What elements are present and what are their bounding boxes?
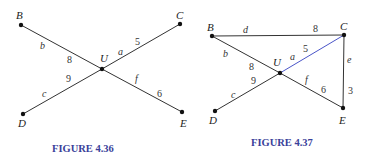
edge-name-b: b	[40, 40, 45, 51]
vertex-D	[21, 112, 25, 116]
vertex-label-U: U	[273, 56, 282, 68]
edge-weight-b: 8	[249, 61, 254, 72]
edge-weight-f: 6	[157, 88, 162, 99]
edge-weight-c: 9	[251, 75, 256, 86]
edge-weight-e: 3	[348, 85, 353, 96]
edge-name-f: f	[305, 74, 309, 85]
vertex-label-U: U	[100, 52, 109, 64]
figure-caption: FIGURE 4.37	[251, 137, 313, 148]
edge-name-a: a	[118, 46, 123, 57]
figure-caption: FIGURE 4.36	[52, 143, 114, 154]
edge-a	[102, 24, 180, 69]
vertex-label-C: C	[340, 20, 348, 32]
vertex-label-B: B	[207, 21, 214, 33]
vertex-U	[278, 71, 282, 75]
edge-name-f: f	[135, 73, 139, 84]
edge-name-d: d	[243, 24, 249, 35]
edge-name-b: b	[223, 48, 228, 59]
edge-weight-c: 9	[66, 73, 71, 84]
edge-d	[212, 35, 344, 36]
vertex-B	[210, 34, 214, 38]
edge-name-a: a	[290, 51, 295, 62]
figure-4-36: B C U D E b 8 a 5 9 c f 6 FIGURE 4.36	[16, 9, 187, 154]
edge-weight-d: 8	[313, 23, 318, 34]
vertex-label-E: E	[179, 117, 187, 129]
edge-weight-a: 5	[135, 36, 140, 47]
edge-name-c: c	[42, 88, 47, 99]
vertex-label-B: B	[16, 9, 23, 21]
vertex-label-C: C	[176, 9, 184, 21]
vertex-U	[100, 67, 104, 71]
edge-weight-b: 8	[67, 54, 72, 65]
edge-f	[102, 69, 182, 112]
vertex-C	[178, 22, 182, 26]
vertex-B	[19, 23, 23, 27]
graph-figures: B C U D E b 8 a 5 9 c f 6 FIGURE 4.36 B …	[0, 0, 369, 158]
edge-e	[343, 35, 344, 108]
edge-weight-a: 5	[303, 43, 308, 54]
edge-name-e: e	[347, 54, 352, 65]
edge-f	[280, 73, 343, 108]
edge-name-c: c	[231, 89, 236, 100]
vertex-label-D: D	[17, 117, 26, 129]
edge-c	[23, 69, 102, 114]
vertex-label-E: E	[338, 114, 346, 126]
edge-weight-f: 6	[321, 84, 326, 95]
vertex-E	[180, 110, 184, 114]
vertex-C	[342, 33, 346, 37]
figure-4-37: B C U D E d 8 b 8 a 5 9 c f 6 e 3 FIGURE…	[207, 20, 353, 148]
vertex-label-D: D	[208, 114, 217, 126]
edge-b	[21, 25, 102, 69]
vertex-E	[341, 106, 345, 110]
vertex-D	[213, 109, 217, 113]
edge-c	[215, 73, 280, 111]
